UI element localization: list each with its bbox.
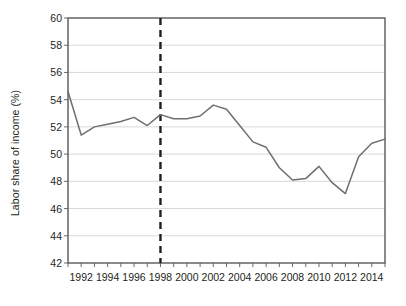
x-tick-label: 2002 [202,272,225,283]
x-tick-label: 1994 [96,272,119,283]
y-tick-label: 60 [36,13,62,24]
x-tick-label: 2012 [334,272,357,283]
x-tick-label: 1992 [70,272,93,283]
y-tick-label: 54 [36,94,62,105]
x-tick-label: 1998 [149,272,172,283]
y-tick-label: 52 [36,122,62,133]
y-tick-label: 46 [36,203,62,214]
x-tick-label: 2010 [307,272,330,283]
plot-frame [68,18,385,263]
chart-container: Labor share of income (%) 42444648505254… [0,0,406,306]
x-tick-label: 2008 [281,272,304,283]
y-tick-label: 56 [36,67,62,78]
y-tick-label: 58 [36,40,62,51]
y-tick-label: 48 [36,176,62,187]
y-tick-label: 44 [36,231,62,242]
x-tick-label: 1996 [122,272,145,283]
x-tick-label: 2006 [254,272,277,283]
x-tick-label: 2000 [175,272,198,283]
series-line-0 [68,92,385,194]
y-tick-label: 50 [36,149,62,160]
x-tick-label: 2014 [360,272,383,283]
x-tick-label: 2004 [228,272,251,283]
y-tick-label: 42 [36,258,62,269]
